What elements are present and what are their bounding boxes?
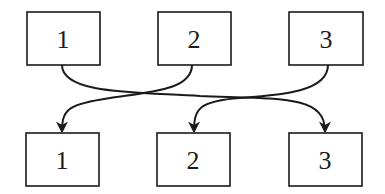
bottom-box-2: 2 [157,133,230,186]
bottom-box-3-label: 3 [319,146,332,175]
bottom-box-3: 3 [289,133,362,186]
top-box-3: 3 [289,12,363,65]
bottom-box-1-label: 1 [56,146,69,175]
arrow-top1-to-bottom3 [62,65,325,131]
top-box-1-label: 1 [57,25,70,54]
top-box-2-label: 2 [188,25,201,54]
bottom-box-1: 1 [26,133,99,186]
arrow-top2-to-bottom1 [62,65,192,131]
top-box-3-label: 3 [320,25,333,54]
bottom-box-2-label: 2 [187,146,200,175]
permutation-diagram: 1 2 3 1 2 3 [0,0,385,194]
top-box-1: 1 [27,12,100,65]
top-box-2: 2 [158,12,231,65]
